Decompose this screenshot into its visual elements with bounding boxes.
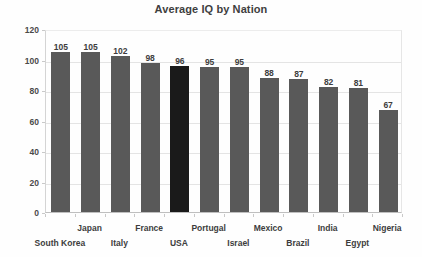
x-axis-tick-mark [343,214,344,217]
x-axis-tick-mark [134,214,135,217]
x-axis-tick-mark [372,214,373,217]
x-axis-category-label: India [296,223,360,233]
y-axis-tick-label: 20 [30,178,39,188]
x-axis-tick-mark [194,214,195,217]
x-axis-tick-mark [75,214,76,217]
x-axis-tick-mark [224,214,225,217]
x-axis-category-label: Brazil [266,238,330,248]
y-axis-tick-label: 40 [30,147,39,157]
bar[interactable] [260,78,279,212]
chart-container: Average IQ by Nation 020406080100120 105… [0,0,422,257]
x-axis-tick-mark [45,214,46,217]
bar[interactable] [349,88,368,212]
x-axis-category-label: Nigeria [355,223,419,233]
y-axis: 020406080100120 [0,0,45,257]
bar[interactable] [51,52,70,212]
x-axis-category-label: Portugal [177,223,241,233]
x-axis-category-label: Israel [206,238,270,248]
x-axis-category-label: Mexico [236,223,300,233]
bar[interactable] [200,67,219,212]
y-axis-tick-label: 80 [30,86,39,96]
x-axis-category-label: Egypt [325,238,389,248]
x-axis-labels: South KoreaJapanItalyFranceUSAPortugalIs… [45,214,402,257]
x-axis-tick-mark [283,214,284,217]
y-axis-tick-label: 60 [30,117,39,127]
bar-value-label: 95 [219,57,259,67]
bar[interactable] [81,52,100,212]
x-axis-category-label: Italy [87,238,151,248]
bar[interactable] [230,67,249,212]
bar-value-label: 67 [368,100,408,110]
x-axis-tick-mark [253,214,254,217]
y-axis-tick-label: 120 [25,25,39,35]
y-axis-tick-label: 0 [34,208,39,218]
x-axis-category-label: France [117,223,181,233]
x-axis-category-label: Japan [58,223,122,233]
chart-title: Average IQ by Nation [0,3,422,15]
bar[interactable] [170,66,189,212]
x-axis-tick-mark [164,214,165,217]
x-axis-category-label: USA [147,238,211,248]
bar[interactable] [141,63,160,212]
x-axis-tick-mark [105,214,106,217]
bar[interactable] [111,56,130,212]
bar[interactable] [289,79,308,212]
bar-value-label: 81 [338,78,378,88]
x-axis-tick-mark [402,214,403,217]
y-axis-tick-label: 100 [25,56,39,66]
x-axis-tick-mark [313,214,314,217]
x-axis-category-label: South Korea [28,238,92,248]
bar[interactable] [379,110,398,212]
bar[interactable] [319,87,338,212]
plot-area: 105105102989695958887828167 [45,30,402,213]
